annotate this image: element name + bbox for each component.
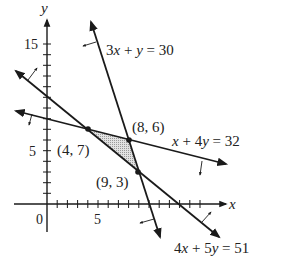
y-axis-label: y — [39, 0, 48, 16]
direction-arrow-icon — [202, 212, 211, 222]
vertex-label-4-7: (4, 7) — [57, 142, 90, 159]
direction-arrow-icon — [83, 42, 96, 46]
vertex-8-6 — [126, 137, 132, 143]
equation-label-4x-plus-5y-51: 4x + 5y = 51 — [174, 240, 249, 256]
x-axis-label: x — [228, 196, 236, 212]
equation-label-x-plus-4y-32: x + 4y = 32 — [171, 133, 240, 149]
vertex-label-8-6: (8, 6) — [132, 119, 165, 136]
direction-arrow-icon — [29, 114, 32, 125]
origin-label: 0 — [36, 212, 43, 227]
lp-diagram: y x 0 5 5 15 (4, 7) (8, 6) (9, 3) 3x + y… — [0, 0, 288, 277]
direction-arrow-icon — [140, 219, 154, 223]
y-tick-label-15: 15 — [24, 37, 38, 52]
direction-arrow-icon — [200, 161, 202, 175]
direction-arrow-icon — [28, 68, 37, 80]
y-tick-label-5: 5 — [29, 144, 36, 159]
equation-label-3x-plus-y-30: 3x + y = 30 — [106, 42, 174, 58]
vertex-9-3 — [135, 169, 141, 175]
vertex-4-7 — [85, 126, 91, 132]
x-tick-label-5: 5 — [94, 212, 101, 227]
vertex-label-9-3: (9, 3) — [96, 174, 129, 191]
